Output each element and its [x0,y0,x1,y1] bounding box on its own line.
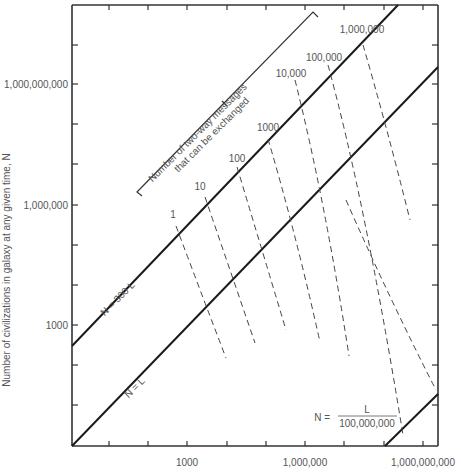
dashed-line-100000 [328,65,403,435]
dashed-label-1000000: 1,000,000 [340,24,385,35]
formula-n-equals: N = [314,412,330,423]
dashed-line-1 [176,226,226,358]
y-tick-label-1e6: 1,000,000 [24,200,69,211]
formula-denominator: 100,000,000 [339,418,395,429]
dashed-label-10000: 10,000 [276,68,307,79]
dashed-line-1000 [268,139,320,342]
bracket-label-line1: Number of two-way messages [146,81,249,184]
y-tick-label-1000: 1000 [46,320,69,331]
dashed-label-1: 1 [170,209,176,220]
dashed-line-100 [237,167,286,330]
y-axis-title: Number of civilizations in galaxy at any… [1,153,12,386]
formula-numerator: L [364,404,370,415]
dashed-lines [176,45,436,435]
dashed-label-100000: 100,000 [306,52,343,63]
dashed-label-10: 10 [194,181,206,192]
x-tick-label-1000: 1000 [176,457,199,468]
x-axis-ticks [109,5,423,446]
dashed-label-1000: 1000 [257,122,280,133]
y-axis-ticks [72,45,438,405]
dashed-label-100: 100 [229,153,246,164]
line-label-l: N = L [122,375,147,400]
line-label-300l: N = 300 L [98,279,137,318]
x-tick-label-1e6: 1,000,000 [283,457,328,468]
chart-canvas: 1000 1,000,000 1,000,000,000 1,000,000,0… [0,0,461,474]
x-tick-label-1e9: 1,000,000,000 [391,457,455,468]
dashed-line-10 [205,197,255,343]
y-tick-label-1e9: 1,000,000,000 [4,79,68,90]
dashed-line-1000000 [363,45,410,220]
dashed-line-10000 [295,80,349,356]
